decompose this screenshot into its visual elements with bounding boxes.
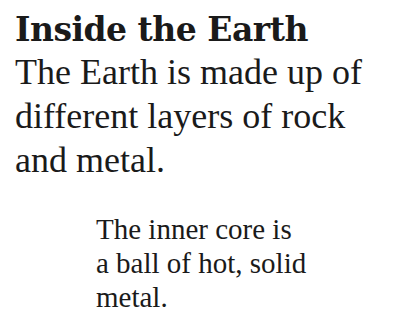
intro-line: The Earth is made up of [15,50,362,94]
caption-line: a ball of hot, solid [96,246,306,280]
page-title: Inside the Earth [15,12,308,48]
intro-line: and metal. [15,138,362,182]
inner-core-caption: The inner core is a ball of hot, solid m… [96,212,306,314]
intro-paragraph: The Earth is made up of different layers… [15,50,362,182]
intro-line: different layers of rock [15,94,362,138]
caption-line: The inner core is [96,212,306,246]
caption-line: metal. [96,280,306,314]
